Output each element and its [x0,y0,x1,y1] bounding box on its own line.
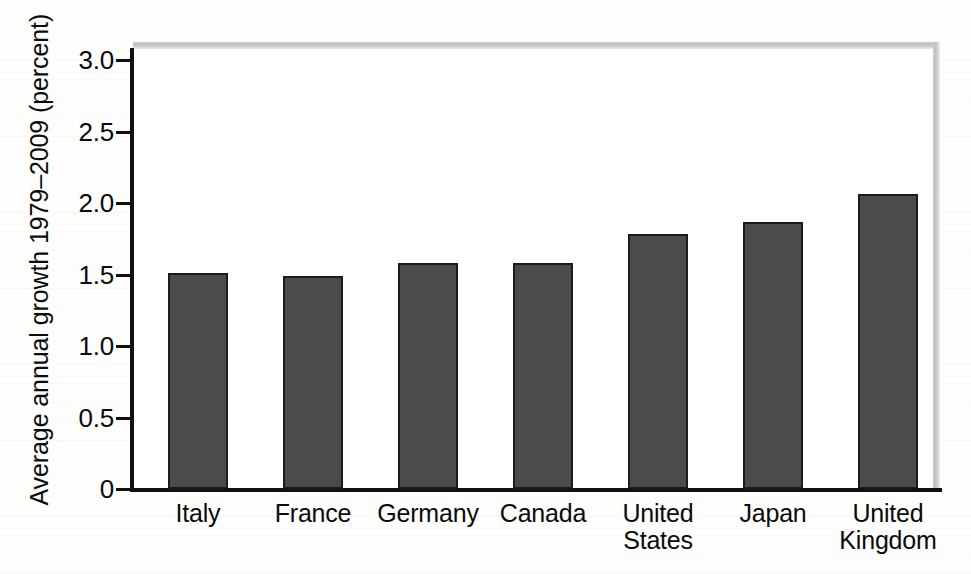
bar-germany [398,263,458,489]
y-axis-tick [116,274,131,277]
y-axis-tick [116,131,131,134]
y-axis-tick-label: 1.5 [52,262,114,288]
y-axis-tick [116,345,131,348]
bar-united-states [628,234,688,489]
bar-united-kingdom [858,194,918,489]
y-axis-tick [116,202,131,205]
x-axis-label-united-kingdom: United Kingdom [808,500,968,554]
bar-italy [168,273,228,489]
y-axis-tick [116,417,131,420]
y-axis-tick-label: 3.0 [52,47,114,73]
y-axis-tick [116,488,131,491]
y-axis-tick-label: 2.5 [52,119,114,145]
bar-canada [513,263,573,489]
y-axis-tick-label: 1.0 [52,333,114,359]
chart-figure: 00.51.01.52.02.53.0 Average annual growt… [0,0,971,574]
bar-france [283,276,343,489]
plot-frame-top-edge [133,42,940,49]
plot-frame-right-edge [933,42,940,492]
bar-japan [743,222,803,489]
y-axis-tick-label: 0.5 [52,405,114,431]
y-axis-title: Average annual growth 1979–2009 (percent… [25,36,54,506]
y-axis-line [130,48,134,492]
y-axis-tick-label: 0 [52,476,114,502]
y-axis-tick-label: 2.0 [52,190,114,216]
y-axis-tick [116,59,131,62]
